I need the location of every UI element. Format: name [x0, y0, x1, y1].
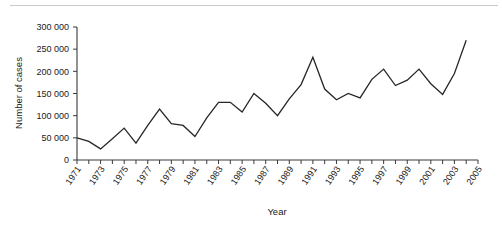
y-tick-label: 50 000: [41, 133, 69, 143]
x-tick-label: 1985: [229, 164, 249, 186]
x-tick-label: 1981: [181, 164, 201, 186]
x-tick-label: 2001: [417, 164, 437, 186]
y-tick-label: 0: [64, 155, 69, 165]
x-tick-label: 1987: [252, 164, 272, 186]
x-tick-label: 1983: [205, 164, 225, 186]
x-tick-label: 1995: [347, 164, 367, 186]
x-tick-label: 2003: [441, 164, 461, 186]
y-tick-labels: 050 000100 000150 000200 000250 000300 0…: [36, 22, 69, 165]
chart-figure: 050 000100 000150 000200 000250 000300 0…: [0, 0, 502, 229]
data-line-number-of-cases: [77, 40, 466, 149]
y-tick-label: 300 000: [36, 22, 69, 32]
x-tick-label: 2005: [464, 164, 484, 186]
x-tick-label: 1991: [299, 164, 319, 186]
y-tick-label: 250 000: [36, 44, 69, 54]
line-chart: 050 000100 000150 000200 000250 000300 0…: [0, 0, 502, 229]
y-axis-title: Number of cases: [13, 57, 24, 129]
x-tick-label: 1973: [87, 164, 107, 186]
x-tick-label: 1977: [134, 164, 154, 186]
y-tick-label: 100 000: [36, 111, 69, 121]
data-series-group: [77, 40, 466, 149]
x-tick-marks: [77, 160, 478, 164]
y-axis: 050 000100 000150 000200 000250 000300 0…: [13, 22, 77, 165]
y-tick-marks: [73, 27, 77, 160]
y-tick-label: 200 000: [36, 67, 69, 77]
x-tick-label: 1971: [63, 164, 83, 186]
x-tick-label: 1975: [111, 164, 131, 186]
y-tick-label: 150 000: [36, 89, 69, 99]
x-tick-label: 1993: [323, 164, 343, 186]
x-tick-label: 1999: [394, 164, 414, 186]
x-tick-label: 1989: [276, 164, 296, 186]
x-tick-label: 1979: [158, 164, 178, 186]
x-tick-label: 1997: [370, 164, 390, 186]
x-axis-title: Year: [267, 206, 286, 217]
x-axis: 1971197319751977197919811983198519871989…: [63, 160, 484, 217]
x-tick-labels: 1971197319751977197919811983198519871989…: [63, 164, 484, 186]
